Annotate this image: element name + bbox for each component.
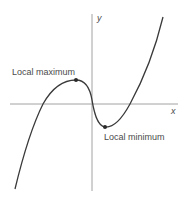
y-axis-label: y <box>96 13 102 23</box>
local-maximum-point <box>74 78 78 82</box>
local-maximum-label: Local maximum <box>12 67 75 77</box>
cubic-curve <box>15 17 163 189</box>
local-minimum-point <box>103 125 107 129</box>
function-graph: y x Local maximum Local minimum <box>0 0 187 200</box>
x-axis-label: x <box>170 106 176 116</box>
local-minimum-label: Local minimum <box>104 132 165 142</box>
